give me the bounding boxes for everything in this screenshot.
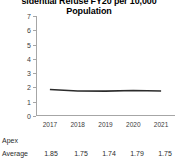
table-cell: 1.79 — [122, 147, 152, 160]
y-tick-label: 1 — [27, 98, 31, 105]
x-tick-label: 2018 — [70, 121, 84, 128]
table-row: Average 1.85 1.75 1.74 1.79 1.75 — [2, 147, 176, 160]
plot-area: 01234567 20172018201920202021 — [36, 16, 175, 116]
table-cell: 1.85 — [36, 147, 66, 160]
y-tick-label: 7 — [27, 13, 31, 20]
x-tick-label: 2017 — [43, 121, 57, 128]
y-tick-label: 6 — [27, 27, 31, 34]
table-cell: 1.74 — [94, 147, 124, 160]
chart-title-line-1: sidential Refuse FY20 per 10,000 — [1, 0, 177, 6]
chart-container: sidential Refuse FY20 per 10,000 Populat… — [0, 0, 178, 163]
table-row-label: Apex — [2, 134, 36, 147]
table-row-cells: 1.85 1.75 1.74 1.79 1.75 — [36, 147, 176, 160]
y-tick-label: 4 — [27, 55, 31, 62]
table-cell: 1.75 — [150, 147, 178, 160]
y-tick — [33, 116, 36, 117]
table-row: Apex — [2, 134, 176, 147]
data-table: Apex Average 1.85 1.75 1.74 1.79 1.75 — [2, 134, 176, 160]
table-row-cells — [36, 134, 176, 147]
x-tick-label: 2019 — [98, 121, 112, 128]
y-tick-label: 3 — [27, 70, 31, 77]
y-tick-label: 0 — [27, 113, 31, 120]
series-average-line — [36, 16, 175, 116]
table-row-label: Average — [2, 147, 36, 160]
y-tick-label: 2 — [27, 84, 31, 91]
table-cell: 1.75 — [66, 147, 96, 160]
x-tick-label: 2020 — [126, 121, 140, 128]
y-tick-label: 5 — [27, 41, 31, 48]
x-tick-label: 2021 — [154, 121, 168, 128]
